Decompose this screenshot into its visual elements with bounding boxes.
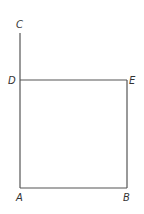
point-label-E: E — [129, 75, 136, 86]
point-label-C: C — [16, 19, 23, 30]
point-label-A: A — [15, 192, 23, 203]
point-label-D: D — [8, 75, 16, 86]
point-label-B: B — [123, 192, 130, 203]
geometry-diagram: C D E A B — [0, 0, 144, 214]
